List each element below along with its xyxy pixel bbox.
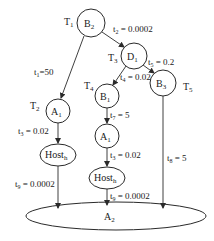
task-t5-label: T5 (183, 81, 193, 94)
node-a2-label: A2 (104, 211, 115, 224)
task-t3-label: T3 (108, 52, 118, 65)
edge-label-t3-left: t3 = 0.02 (18, 126, 49, 137)
node-a2 (26, 202, 206, 230)
edge-label-t4: t4 = 0.02 (120, 72, 151, 83)
edge-label-t9-left: t9 = 0.0002 (15, 179, 55, 190)
task-graph-diagram: A2 B2 T1 D1 T3 B1 T4 B3 T5 A1 T2 A1 (0, 0, 214, 241)
task-t2-label: T2 (30, 100, 40, 113)
edge-label-t5: t5 = 0.2 (148, 57, 174, 68)
task-t4-label: T4 (84, 80, 94, 93)
edge-label-t8: t8 = 5 (167, 153, 187, 164)
edge-label-t3-mid: t3 = 0.02 (110, 150, 141, 161)
task-t1-label: T1 (64, 16, 74, 29)
edge-b2-d1 (102, 32, 124, 47)
edge-b2-a1-left (61, 36, 84, 98)
edge-label-t2: t2 = 0.0002 (113, 24, 153, 35)
edge-label-t7: t7 = 5 (110, 110, 130, 121)
edge-label-t9-mid: t9 = 0.0002 (110, 191, 150, 202)
edge-label-t1: t1=50 (34, 67, 54, 78)
